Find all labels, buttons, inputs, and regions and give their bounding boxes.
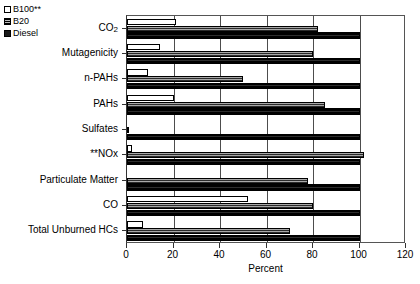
- x-axis-tick: [359, 243, 360, 248]
- bar-b100: [127, 145, 132, 151]
- bar-b100: [127, 19, 176, 25]
- x-axis-tick-label: 100: [350, 249, 367, 260]
- x-axis-tick: [405, 243, 406, 248]
- bar-b20: [127, 51, 313, 57]
- y-axis-label: Sulfates: [82, 123, 118, 134]
- x-axis-tick: [312, 243, 313, 248]
- x-axis-tick-label: 0: [123, 249, 129, 260]
- x-axis-tick: [126, 243, 127, 248]
- y-axis-label: PAHs: [93, 98, 118, 109]
- legend-swatch-b100-icon: [4, 6, 11, 13]
- x-axis-tick-label: 20: [167, 249, 178, 260]
- bar-group: [127, 219, 404, 244]
- y-axis-label: CO2: [99, 22, 118, 35]
- legend-item-b100: B100**: [4, 4, 124, 15]
- y-axis-label: **NOx: [90, 148, 118, 159]
- bar-diesel: [127, 184, 360, 190]
- bar-b100: [127, 196, 248, 202]
- y-axis-label: n-PAHs: [84, 72, 118, 83]
- y-axis-label: Particulate Matter: [40, 174, 118, 185]
- chart-plot-area: [126, 15, 405, 243]
- bar-diesel: [127, 134, 360, 140]
- bar-b20: [127, 127, 129, 133]
- bar-b20: [127, 76, 243, 82]
- bar-b100: [127, 95, 174, 101]
- bar-groups: [127, 16, 404, 242]
- y-axis-label: CO: [103, 199, 118, 210]
- bar-group: [127, 193, 404, 218]
- bar-diesel: [127, 210, 360, 216]
- bar-group: [127, 168, 404, 193]
- bar-diesel: [127, 108, 360, 114]
- bar-diesel: [127, 83, 360, 89]
- bar-b20: [127, 26, 318, 32]
- x-axis-title: Percent: [126, 263, 405, 274]
- bar-group: [127, 16, 404, 41]
- x-axis-tick-label: 40: [213, 249, 224, 260]
- bar-diesel: [127, 58, 360, 64]
- bar-b20: [127, 203, 313, 209]
- bar-group: [127, 117, 404, 142]
- bar-diesel: [127, 235, 360, 241]
- x-axis-tick: [266, 243, 267, 248]
- bar-b100: [127, 44, 160, 50]
- x-axis-tick: [219, 243, 220, 248]
- bar-group: [127, 92, 404, 117]
- bar-b20: [127, 228, 290, 234]
- bar-group: [127, 143, 404, 168]
- x-axis-ticks: [126, 243, 405, 248]
- x-axis-tick-labels: 020406080100120: [126, 249, 405, 261]
- bar-b20: [127, 102, 325, 108]
- y-axis-label: Total Unburned HCs: [28, 224, 118, 235]
- legend-label-b100: B100**: [13, 5, 41, 14]
- bar-b20: [127, 178, 308, 184]
- x-axis-tick: [173, 243, 174, 248]
- bar-b100: [127, 221, 143, 227]
- bar-group: [127, 67, 404, 92]
- bar-b20: [127, 152, 364, 158]
- bar-b100: [127, 69, 148, 75]
- y-axis-category-labels: CO2Mutagenicityn-PAHsPAHsSulfates**NOxPa…: [0, 15, 122, 243]
- y-axis-label: Mutagenicity: [62, 47, 118, 58]
- bar-group: [127, 41, 404, 66]
- x-axis-tick-label: 80: [306, 249, 317, 260]
- bar-diesel: [127, 159, 360, 165]
- x-axis-tick-label: 60: [260, 249, 271, 260]
- x-axis-tick-label: 120: [397, 249, 414, 260]
- bar-diesel: [127, 32, 360, 38]
